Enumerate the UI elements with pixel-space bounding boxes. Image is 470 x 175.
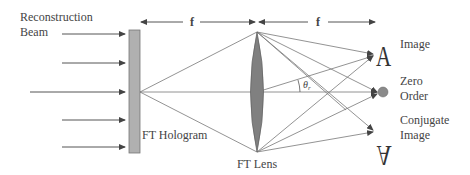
ft-hologram-diagram: Reconstruction Beam f f θ: [0, 0, 470, 175]
zero-order-label-2: Order: [400, 89, 428, 103]
incoming-beam-arrows: [30, 34, 125, 147]
zero-order-label: Zero: [400, 74, 423, 88]
angle-arc: [298, 80, 300, 92]
lens-output-rays: [257, 32, 377, 152]
svg-text:A: A: [376, 139, 391, 173]
conjugate-image-glyph: A: [376, 139, 391, 173]
image-glyph: A: [376, 39, 391, 73]
ft-hologram-plate: [129, 30, 140, 153]
reconstruction-beam-label-2: Beam: [20, 25, 49, 39]
conjugate-image-label: Conjugate: [400, 113, 449, 127]
angle-theta-label: θr: [303, 79, 311, 92]
conjugate-image-label-2: Image: [400, 128, 430, 142]
ft-lens: [251, 32, 264, 152]
ft-hologram-label: FT Hologram: [142, 128, 208, 142]
focal-length-label-1: f: [190, 15, 195, 29]
focal-length-label-2: f: [316, 15, 321, 29]
reconstruction-beam-label: Reconstruction: [20, 10, 93, 24]
image-label: Image: [400, 37, 430, 51]
zero-order-dot: [378, 87, 388, 97]
ft-lens-label: FT Lens: [237, 157, 277, 171]
